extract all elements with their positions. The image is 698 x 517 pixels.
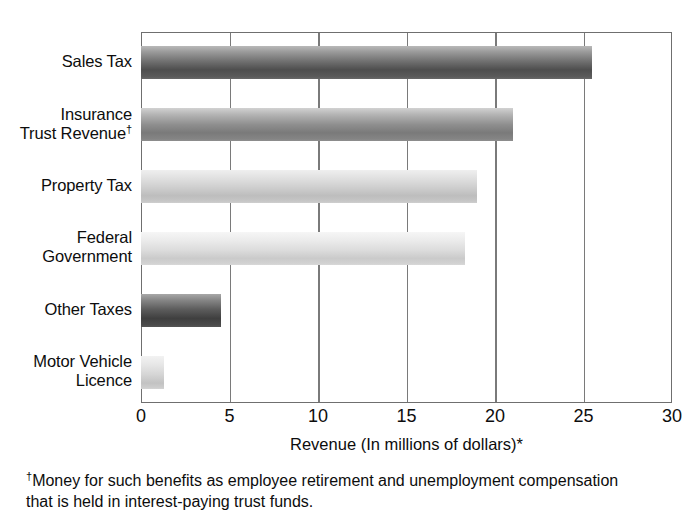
category-label-motor-vehicle-licence: Motor VehicleLicence xyxy=(0,352,132,390)
footnote-line-2: that is held in interest-paying trust fu… xyxy=(26,493,313,510)
gridline-25 xyxy=(584,33,586,402)
x-tick-30: 30 xyxy=(662,406,682,427)
category-label-other-taxes: Other Taxes xyxy=(0,300,132,319)
chart-footnote: †Money for such benefits as employee ret… xyxy=(26,470,686,512)
category-label-federal-government: FederalGovernment xyxy=(0,228,132,266)
category-label-insurance-trust-revenue: InsuranceTrust Revenue† xyxy=(0,105,132,143)
category-label-property-tax: Property Tax xyxy=(0,176,132,195)
revenue-bar-chart: Sales TaxInsuranceTrust Revenue†Property… xyxy=(0,0,698,517)
x-axis-title: Revenue (In millions of dollars)* xyxy=(141,435,672,454)
x-tick-0: 0 xyxy=(136,406,146,427)
gridline-15 xyxy=(407,33,409,402)
x-tick-15: 15 xyxy=(396,406,416,427)
category-footnote-marker: † xyxy=(126,122,132,134)
category-axis-labels: Sales TaxInsuranceTrust Revenue†Property… xyxy=(0,32,132,403)
x-tick-20: 20 xyxy=(485,406,505,427)
x-axis-tick-labels: 051015202530 xyxy=(141,404,672,432)
gridline-20 xyxy=(495,33,497,402)
category-label-sales-tax: Sales Tax xyxy=(0,52,132,71)
x-tick-25: 25 xyxy=(573,406,593,427)
x-tick-10: 10 xyxy=(308,406,328,427)
gridline-5 xyxy=(230,33,232,402)
x-tick-5: 5 xyxy=(224,406,234,427)
gridline-10 xyxy=(318,33,320,402)
plot-area xyxy=(141,32,672,403)
footnote-line-1: Money for such benefits as employee reti… xyxy=(32,472,618,489)
